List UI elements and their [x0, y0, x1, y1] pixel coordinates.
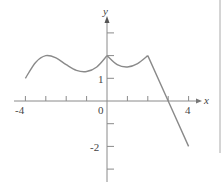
graph: x y -4 0 4 1 -2	[0, 0, 222, 191]
x-tick-label-0: 0	[98, 104, 104, 116]
y-tick-label-neg2: -2	[90, 141, 99, 153]
y-axis	[105, 16, 115, 182]
x-axis	[14, 96, 202, 104]
y-tick-label-1: 1	[98, 73, 104, 85]
x-axis-arrow-icon	[196, 99, 202, 104]
y-axis-arrow-icon	[105, 16, 110, 23]
y-axis-label: y	[102, 5, 108, 17]
x-axis-label: x	[203, 94, 209, 106]
x-tick-label-neg4: -4	[15, 104, 25, 116]
x-tick-label-4: 4	[185, 104, 191, 116]
